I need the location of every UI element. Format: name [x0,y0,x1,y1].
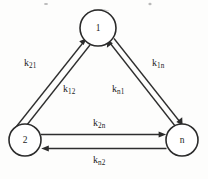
edge-label-k1n: k1n [152,58,165,71]
edge-label-kn2-subscript: n2 [98,159,105,167]
edge-label-kn2: kn2 [93,155,106,168]
edge-k1n [114,39,183,126]
edge-label-k12: k12 [63,84,76,97]
edge-label-k1n-subscript: 1n [157,62,164,70]
node-n[interactable]: n [166,124,198,156]
node-1[interactable]: 1 [80,10,116,46]
edge-label-k2n-subscript: 2n [98,122,105,130]
edge-label-kn1: kn1 [112,84,125,97]
node-2-label: 2 [23,135,28,145]
edge-label-k21-subscript: 21 [29,62,36,70]
edge-label-k12-subscript: 12 [68,88,75,96]
diagram-canvas: 1 2 n [0,0,208,179]
node-n-label: n [180,135,185,145]
edge-label-kn1-subscript: n1 [117,88,124,96]
edge-label-k2n: k2n [93,118,106,131]
edge-label-k21: k21 [24,58,37,71]
node-1-label: 1 [96,23,101,33]
edge-kn2 [41,146,166,152]
edge-k21 [16,38,87,127]
edge-k2n [41,132,166,138]
node-2[interactable]: 2 [9,124,41,156]
figure-container: 1 2 n k21 k12 k1n kn1 k2n kn2 [0,0,208,179]
